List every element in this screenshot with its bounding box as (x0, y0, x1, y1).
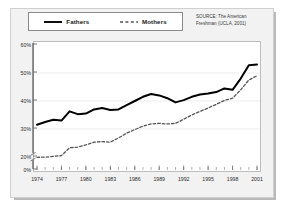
x-axis-tick-1992: 1992 (178, 176, 190, 182)
source-note: SOURCE: The American Freshman (UCLA, 200… (196, 13, 270, 27)
x-axis-tick-1983: 1983 (105, 176, 117, 182)
chart-figure: Fathers Mothers SOURCE: The American Fre… (0, 0, 285, 208)
x-axis-tick-1977: 1977 (56, 176, 68, 182)
x-axis-tick-1989: 1989 (153, 176, 165, 182)
plot-area (33, 41, 261, 172)
legend-label-mothers: Mothers (142, 18, 167, 25)
x-axis-tick-2001: 2001 (251, 176, 263, 182)
plot-svg (34, 42, 260, 171)
series-line-fathers (37, 65, 257, 125)
legend-entry-fathers: Fathers (44, 18, 89, 25)
chart-legend: Fathers Mothers (28, 12, 183, 31)
x-axis-tick-1998: 1998 (227, 176, 239, 182)
dashed-line-swatch (120, 19, 138, 25)
x-axis-tick-labels: 1974197719801983198619891992199519982001 (33, 176, 261, 188)
x-axis-tick-1980: 1980 (80, 176, 92, 182)
source-note-line-1: SOURCE: The American (196, 13, 270, 20)
x-axis-tick-1974: 1974 (31, 176, 43, 182)
solid-line-swatch (44, 19, 62, 25)
y-axis-spine (28, 41, 38, 172)
legend-label-fathers: Fathers (66, 18, 89, 25)
x-axis-tick-1986: 1986 (129, 176, 141, 182)
source-note-line-2: Freshman (UCLA, 2001) (196, 20, 270, 27)
legend-entry-mothers: Mothers (120, 18, 167, 25)
x-axis-tick-1995: 1995 (202, 176, 214, 182)
